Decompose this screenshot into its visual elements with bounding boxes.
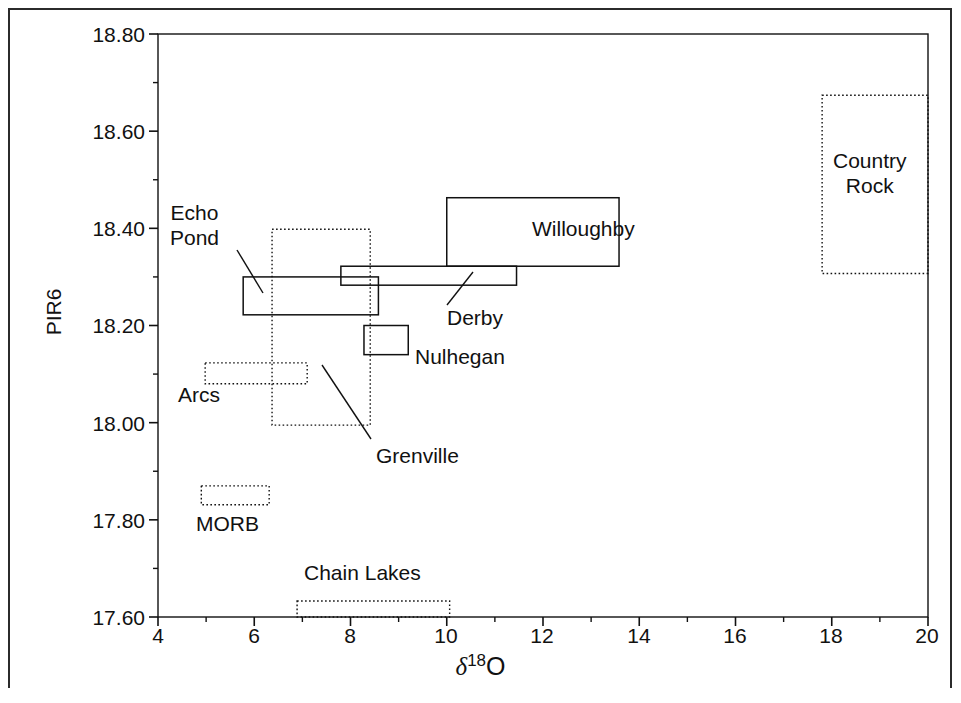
oxygen-symbol: O <box>486 652 505 680</box>
field-label-line: MORB <box>196 511 259 536</box>
field-label-echo-pond: EchoPond <box>170 200 219 250</box>
field-label-line: Grenville <box>376 443 459 468</box>
figure-canvas: 18.80 18.60 18.40 18.20 18.00 17.80 17.6… <box>0 0 961 703</box>
field-label-line: Chain Lakes <box>304 560 421 585</box>
field-label-grenville: Grenville <box>376 443 459 468</box>
field-label-line: Rock <box>833 173 907 198</box>
field-label-willoughby: Willoughby <box>532 216 635 241</box>
x-tick-label: 10 <box>426 624 466 648</box>
field-label-line: Pond <box>170 225 219 250</box>
y-tick-label: 17.80 <box>40 509 145 533</box>
field-label-line: Arcs <box>178 382 220 407</box>
x-tick-label: 8 <box>330 624 370 648</box>
x-tick-label: 16 <box>715 624 755 648</box>
y-axis-title: PIR6 <box>42 252 66 372</box>
delta-symbol: δ <box>456 653 468 680</box>
field-box-echo-pond[interactable] <box>243 277 378 315</box>
field-box-derby[interactable] <box>341 266 517 285</box>
field-label-line: Willoughby <box>532 216 635 241</box>
x-axis-title: δ18O <box>0 652 961 681</box>
field-box-grenville[interactable] <box>272 229 370 425</box>
field-label-derby: Derby <box>447 305 503 330</box>
x-tick-label: 20 <box>907 624 947 648</box>
plot-frame <box>158 34 928 617</box>
y-tick-label: 18.60 <box>40 120 145 144</box>
field-label-line: Country <box>833 148 907 173</box>
y-tick-label: 18.80 <box>40 23 145 47</box>
field-label-country-rock: CountryRock <box>833 148 907 198</box>
leader-line-grenville <box>322 365 371 439</box>
x-tick-label: 4 <box>138 624 178 648</box>
x-tick-label: 12 <box>522 624 562 648</box>
y-tick-label: 17.60 <box>40 606 145 630</box>
x-tick-label: 6 <box>234 624 274 648</box>
leader-line-echo-pond <box>237 250 263 293</box>
field-label-nulhegan: Nulhegan <box>415 344 505 369</box>
field-box-morb[interactable] <box>201 486 269 505</box>
field-box-chain-lakes[interactable] <box>297 601 450 617</box>
x-tick-label: 14 <box>619 624 659 648</box>
y-tick-label: 18.40 <box>40 217 145 241</box>
field-label-morb: MORB <box>196 511 259 536</box>
x-tick-label: 18 <box>811 624 851 648</box>
y-tick-label: 18.00 <box>40 412 145 436</box>
leader-line-derby <box>447 272 473 305</box>
field-label-line: Derby <box>447 305 503 330</box>
field-label-line: Echo <box>170 200 219 225</box>
field-label-chain-lakes: Chain Lakes <box>304 560 421 585</box>
field-label-arcs: Arcs <box>178 382 220 407</box>
field-label-line: Nulhegan <box>415 344 505 369</box>
field-box-arcs[interactable] <box>205 363 307 384</box>
isotope-superscript: 18 <box>467 651 486 670</box>
